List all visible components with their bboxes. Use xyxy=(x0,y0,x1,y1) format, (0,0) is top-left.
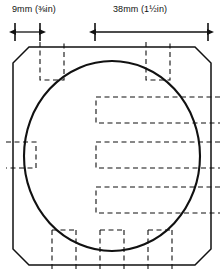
hidden-slot-lower-right xyxy=(96,187,220,213)
chamfered-square-outline xyxy=(13,47,211,265)
large-dimension-arrow xyxy=(95,23,208,41)
small-dimension-arrow xyxy=(15,23,40,41)
drawing-canvas xyxy=(0,0,224,273)
hidden-square-left-middle xyxy=(6,142,36,168)
hidden-feature-group xyxy=(6,42,220,272)
hidden-slot-upper-right xyxy=(96,97,220,123)
engineering-drawing-figure: 9mm (⅜in) 38mm (1½in) xyxy=(0,0,224,273)
hidden-slot-middle-right xyxy=(96,142,220,168)
bore-circle xyxy=(24,61,200,251)
